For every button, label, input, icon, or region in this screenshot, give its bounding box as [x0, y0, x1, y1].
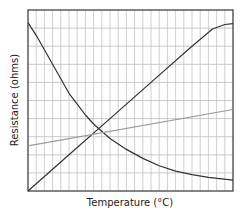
series-line-2 [28, 24, 233, 191]
resistance-temperature-chart: Temperature (°C) Resistance (ohms) [0, 0, 246, 213]
series-line-3 [28, 110, 233, 146]
x-axis-label: Temperature (°C) [86, 197, 173, 208]
series-group [28, 23, 233, 191]
y-axis-label: Resistance (ohms) [9, 54, 20, 146]
